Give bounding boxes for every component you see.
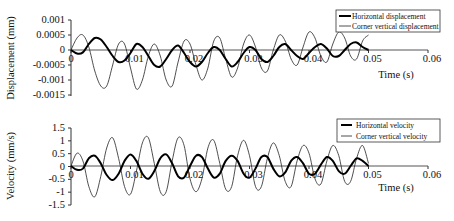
y-tick-label: 1.5 <box>52 122 65 133</box>
velocity-chart: Velocity (mm/s) 1.510.50-0.5-1-1.5 00.01… <box>5 119 441 210</box>
x-tick-label: 0.06 <box>423 53 441 64</box>
x-axis-label: Time (s) <box>378 69 414 81</box>
legend: Horizontal displacement Corner vertical … <box>336 10 440 32</box>
y-tick-label: -0.0015 <box>33 89 65 100</box>
x-axis-label: Time (s) <box>378 182 414 194</box>
y-tick-label: 0.001 <box>41 14 65 25</box>
legend-item: Horizontal velocity <box>356 121 414 130</box>
y-tick-label: 0.5 <box>52 148 65 159</box>
x-ticks: 00.010.020.030.040.050.06 <box>68 50 441 64</box>
y-axis-label: Displacement (mm) <box>5 16 17 100</box>
y-ticks: 1.510.50-0.5-1-1.5 <box>48 122 71 210</box>
legend-item: Corner vertical displacement <box>352 22 440 31</box>
y-tick-label: 0.0005 <box>36 29 65 40</box>
y-tick-label: -1 <box>56 186 65 197</box>
x-tick-label: 0.05 <box>363 53 381 64</box>
displacement-chart: Displacement (mm) 0.001 0.0005 0 -0.0005… <box>5 10 441 100</box>
y-tick-label: -1.5 <box>48 199 65 210</box>
y-tick-label: -0.5 <box>48 173 65 184</box>
x-tick-label: 0.05 <box>363 169 381 180</box>
series-horizontal-velocity <box>71 154 369 180</box>
y-axis-label: Velocity (mm/s) <box>5 132 17 200</box>
y-tick-label: -0.0005 <box>33 59 65 70</box>
legend: Horizontal velocity Corner vertical velo… <box>337 119 440 142</box>
legend-item: Corner vertical velocity <box>356 132 427 141</box>
chart-figure: Displacement (mm) 0.001 0.0005 0 -0.0005… <box>0 0 454 221</box>
x-tick-label: 0.06 <box>423 169 441 180</box>
y-tick-label: 1 <box>60 135 65 146</box>
y-tick-label: 0 <box>60 161 65 172</box>
x-tick-label: 0 <box>68 169 73 180</box>
y-tick-label: 0 <box>60 44 65 55</box>
x-tick-label: 0 <box>68 53 73 64</box>
y-tick-label: -0.001 <box>38 74 65 85</box>
series-corner-vertical-velocity <box>71 136 369 197</box>
legend-item: Horizontal displacement <box>352 12 426 21</box>
y-ticks: 0.001 0.0005 0 -0.0005 -0.001 -0.0015 <box>33 14 71 100</box>
